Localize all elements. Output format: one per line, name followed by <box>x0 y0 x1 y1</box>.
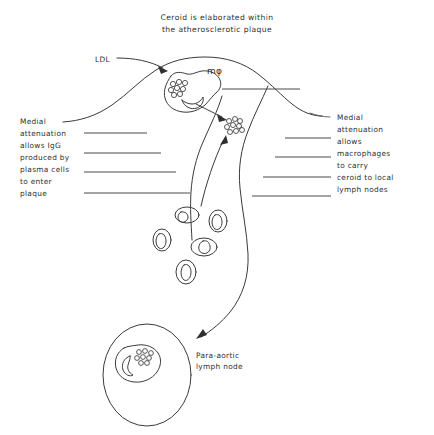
lymph-node-arrow <box>196 329 207 339</box>
right-annotation-block: Medial attenuation allows macrophages to… <box>222 89 394 196</box>
left-annotation-line-1: Medial <box>20 117 46 126</box>
lymph-node-macrophage-nucleus <box>122 356 133 376</box>
lumen-wall-left <box>191 96 222 240</box>
lumen-to-ceroid-arrowhead <box>220 135 228 145</box>
ceroid-granules-macrophage <box>168 79 187 97</box>
ldl-arrow-line <box>117 58 163 68</box>
macrophage-symbol-label: mφ <box>207 66 222 76</box>
title-line-1: Ceroid is elaborated within <box>161 13 274 22</box>
diagram-canvas: Ceroid is elaborated within the atherosc… <box>0 0 434 435</box>
left-annotation-block: Medial attenuation allows IgG produced b… <box>20 117 190 198</box>
right-annotation-line-1: Medial <box>337 113 363 122</box>
lymph-node-macrophage-outline <box>115 345 160 382</box>
left-annotation-line-6: to enter <box>20 177 53 186</box>
circulating-cell <box>209 210 227 232</box>
left-annotation-line-7: plaque <box>20 189 47 198</box>
right-annotation-line-6: ceroid to local <box>337 173 394 182</box>
ceroid-granules-lymph-node <box>135 349 154 366</box>
para-aortic-lymph-node <box>103 324 191 426</box>
ceroid-atherosclerosis-diagram: Ceroid is elaborated within the atherosc… <box>0 0 434 435</box>
ldl-label: LDL <box>95 55 110 64</box>
circulating-cell <box>176 260 196 284</box>
circulating-cells-group <box>153 207 227 284</box>
right-annotation-line-2: attenuation <box>337 125 383 134</box>
lymph-node-capsule <box>103 324 191 426</box>
lymph-node-label-line-2: lymph node <box>196 362 243 371</box>
plaque-macrophage: mφ <box>164 66 222 112</box>
right-annotation-line-7: lymph nodes <box>337 185 388 194</box>
lumen-to-ceroid-line <box>201 141 223 206</box>
circulating-cell <box>191 238 217 256</box>
right-annotation-line-5: to carry <box>337 161 368 170</box>
left-annotation-line-2: attenuation <box>20 129 66 138</box>
vessel-wall-group <box>63 57 330 337</box>
lymph-node-label: Para-aortic lymph node <box>196 351 243 371</box>
free-ceroid-cluster <box>225 117 245 135</box>
macrophage-nucleus <box>182 97 203 109</box>
circulating-cell <box>153 229 171 251</box>
left-annotation-line-3: allows IgG <box>20 141 61 150</box>
lymph-node-label-line-1: Para-aortic <box>196 351 239 360</box>
circulating-cell <box>175 207 199 223</box>
macrophage-to-ceroid-arrowhead <box>217 114 227 122</box>
right-annotation-line-3: allows <box>337 137 362 146</box>
diagram-title: Ceroid is elaborated within the atherosc… <box>161 13 274 34</box>
right-annotation-line-4: macrophages <box>337 149 390 158</box>
lumen-to-ceroid-arrow <box>201 135 228 206</box>
left-annotation-line-4: produced by <box>20 153 70 162</box>
title-line-2: the atherosclerotic plaque <box>162 25 272 34</box>
lymph-node-arrowhead <box>196 329 207 339</box>
macrophage-to-ceroid-arrow <box>196 104 227 122</box>
ldl-arrowhead <box>158 66 168 74</box>
ldl-annotation: LDL <box>95 55 168 74</box>
left-annotation-line-5: plasma cells <box>20 165 69 174</box>
